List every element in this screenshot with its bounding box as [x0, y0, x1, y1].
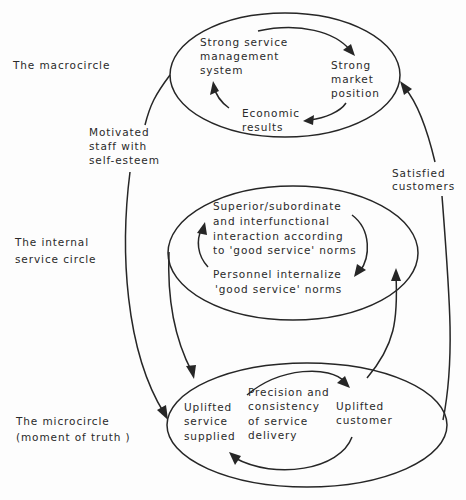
- motivated-staff-link-top: [145, 75, 170, 125]
- arrowhead-icon: [229, 452, 241, 465]
- node-strong-market-position: Strong market position: [331, 59, 380, 99]
- node-uplifted-customer: Uplifted customer: [336, 400, 393, 426]
- service-circles-diagram: The macrocircle The internal service cir…: [0, 0, 466, 500]
- level-label-internal: The internal service circle: [14, 236, 96, 265]
- micro-arrow-to-supplied: [235, 437, 352, 470]
- arrowhead-icon: [186, 365, 196, 379]
- node-strong-service-management: Strong service management system: [200, 36, 292, 76]
- satisfied-customers-link-bottom: [442, 196, 450, 420]
- node-uplifted-service-supplied: Uplifted service supplied: [184, 401, 236, 442]
- link-label-motivated-staff: Motivated staff with self-esteem: [89, 126, 160, 166]
- level-label-micro: The microcircle (moment of truth ): [15, 415, 131, 443]
- arrowhead-icon: [197, 222, 207, 235]
- arrowhead-icon: [157, 405, 168, 420]
- arrowhead-icon: [343, 44, 355, 56]
- arrowhead-icon: [303, 115, 314, 125]
- satisfied-customers-link-top: [405, 88, 435, 162]
- arrowhead-icon: [210, 81, 219, 95]
- node-economic-results: Economic results: [242, 107, 304, 133]
- motivated-staff-link-bottom: [126, 172, 164, 413]
- arrowhead-icon: [391, 268, 401, 281]
- level-label-macro: The macrocircle: [12, 59, 110, 71]
- arrowhead-icon: [354, 264, 366, 277]
- link-label-satisfied-customers: Satisfied customers: [392, 167, 455, 192]
- internal-arrow-down: [352, 215, 367, 271]
- node-superior-subordinate-interaction: Superior/subordinate and interfunctional…: [213, 200, 357, 256]
- macro-arrow-to-economic: [310, 103, 346, 120]
- diagram-svg: The macrocircle The internal service cir…: [0, 0, 466, 500]
- arrowhead-icon: [400, 81, 412, 95]
- internal-right-side: [367, 275, 396, 378]
- node-personnel-internalize: Personnel internalize 'good service' nor…: [213, 268, 346, 295]
- node-precision-consistency: Precision and consistency of service del…: [248, 386, 334, 441]
